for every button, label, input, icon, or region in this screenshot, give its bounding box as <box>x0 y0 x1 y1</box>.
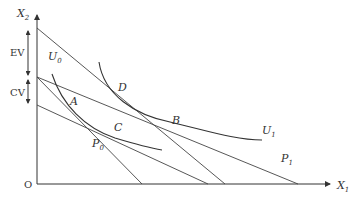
y-axis-label: X2 <box>16 7 30 22</box>
indifference-curve-u0 <box>52 74 162 150</box>
budget-line-cv <box>37 105 208 184</box>
u1-label: U1 <box>262 124 276 139</box>
point-d-label: D <box>117 81 127 94</box>
origin-label: O <box>24 179 32 190</box>
point-b-label: B <box>171 114 180 127</box>
point-c-label: C <box>114 121 123 134</box>
p0-label: P0 <box>91 137 104 152</box>
budget-line-p1 <box>37 77 298 184</box>
p1-label: P1 <box>280 152 293 167</box>
x-axis-label: X1 <box>336 179 349 194</box>
welfare-diagram: X2 X1 O EV CV U0 U1 P0 P1 A B C D <box>0 0 356 206</box>
point-a-label: A <box>69 95 78 108</box>
cv-label: CV <box>10 87 26 98</box>
indifference-curve-u1 <box>99 62 262 140</box>
ev-label: EV <box>10 47 25 58</box>
u0-label: U0 <box>48 50 62 65</box>
